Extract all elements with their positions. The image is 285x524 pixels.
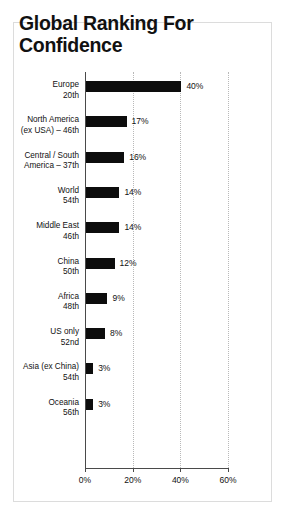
category-label-line2: 56th [0, 408, 79, 419]
chart-row: World54th14% [0, 178, 257, 213]
category-label: Oceania56th [0, 398, 79, 419]
chart-row: Asia (ex China)54th3% [0, 354, 257, 389]
bar-chart-plot: Europe20th40%North America(ex USA) – 46t… [0, 72, 257, 478]
category-label: Asia (ex China)54th [0, 362, 79, 383]
bar [86, 363, 93, 374]
chart-row: Oceania56th3% [0, 390, 257, 425]
category-label-line2: America – 37th [0, 161, 79, 172]
tickmark-60pct [228, 468, 229, 472]
category-label-line1: Africa [0, 292, 79, 303]
category-label: Middle East46th [0, 221, 79, 242]
category-label-line1: World [0, 186, 79, 197]
bar [86, 293, 107, 304]
chart-row: China50th12% [0, 249, 257, 284]
category-label-line2: 46th [0, 232, 79, 243]
bar-value-label: 40% [186, 81, 203, 92]
bar-value-label: 16% [129, 152, 146, 163]
bar-value-label: 3% [98, 399, 110, 410]
bar-value-label: 14% [124, 222, 141, 233]
chart-row: Europe20th40% [0, 72, 257, 107]
bar [86, 116, 127, 127]
category-label-line1: North America [0, 115, 79, 126]
category-label: Africa48th [0, 292, 79, 313]
category-label: North America(ex USA) – 46th [0, 115, 79, 136]
tickmark-20pct [133, 468, 134, 472]
category-label-line2: (ex USA) – 46th [0, 126, 79, 137]
bar [86, 328, 105, 339]
category-label-line1: US only [0, 327, 79, 338]
category-label: World54th [0, 186, 79, 207]
category-label-line2: 52nd [0, 338, 79, 349]
category-label-line1: Asia (ex China) [0, 362, 79, 373]
axis-tick-label: 0% [65, 475, 105, 485]
chart-row: North America(ex USA) – 46th17% [0, 107, 257, 142]
chart-row: Africa48th9% [0, 284, 257, 319]
bar [86, 258, 115, 269]
category-label-line1: Central / South [0, 151, 79, 162]
category-label-line1: Europe [0, 80, 79, 91]
chart-row: Central / SouthAmerica – 37th16% [0, 143, 257, 178]
category-label-line2: 48th [0, 302, 79, 313]
chart-row: US only52nd8% [0, 319, 257, 354]
tickmark-0pct [85, 468, 86, 472]
category-label: US only52nd [0, 327, 79, 348]
category-label-line1: China [0, 257, 79, 268]
category-label-line2: 20th [0, 91, 79, 102]
category-label-line1: Middle East [0, 221, 79, 232]
tickmark-40pct [180, 468, 181, 472]
category-label: China50th [0, 257, 79, 278]
category-axis-line [85, 468, 229, 469]
bar [86, 81, 181, 92]
bar-value-label: 14% [124, 187, 141, 198]
bar [86, 187, 119, 198]
bar-value-label: 12% [120, 258, 137, 269]
axis-tick-label: 20% [113, 475, 153, 485]
page-title: Global Ranking For Confidence [19, 12, 244, 56]
category-label-line2: 54th [0, 196, 79, 207]
bar-value-label: 8% [110, 328, 122, 339]
bar [86, 222, 119, 233]
bar-value-label: 17% [132, 116, 149, 127]
category-label-line2: 54th [0, 373, 79, 384]
bar-value-label: 9% [112, 293, 124, 304]
chart-row: Middle East46th14% [0, 213, 257, 248]
bar [86, 399, 93, 410]
bar-value-label: 3% [98, 363, 110, 374]
axis-tick-label: 60% [208, 475, 248, 485]
bar [86, 152, 124, 163]
category-label-line2: 50th [0, 267, 79, 278]
category-label-line1: Oceania [0, 398, 79, 409]
axis-tick-label: 40% [160, 475, 200, 485]
category-label: Central / SouthAmerica – 37th [0, 151, 79, 172]
category-label: Europe20th [0, 80, 79, 101]
